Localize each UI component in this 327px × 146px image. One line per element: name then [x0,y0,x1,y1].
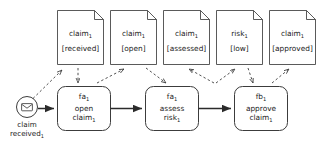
envelope-icon [22,104,33,111]
data-association-assess-to-claim-assessed [189,69,214,83]
process-diagram-canvas: claim1 [received] claim1 [open] claim1 [… [0,0,327,146]
data-object-claim-approved[interactable] [270,11,316,65]
activity-open-claim[interactable] [58,87,111,131]
data-association-risk-low-to-approve [248,68,253,83]
data-object-claim-received[interactable] [58,11,104,65]
diagram-shapes-layer [0,0,327,146]
data-association-open-to-claim-open [97,69,124,83]
activity-assess-risk[interactable] [146,87,199,131]
data-object-claim-assessed[interactable] [164,11,210,65]
activity-approve-claim[interactable] [235,87,288,131]
data-association-claim-open-to-assess [146,68,166,83]
data-object-risk-low[interactable] [217,11,263,65]
data-association-assess-to-risk-low [216,69,235,83]
start-event-claim-received[interactable] [17,97,38,118]
data-association-approve-to-claim-approved [272,69,289,83]
data-object-claim-open[interactable] [111,11,157,65]
